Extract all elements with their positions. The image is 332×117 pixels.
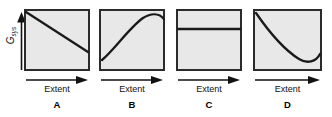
panel-a-curve [24, 9, 90, 71]
panel-b-curve [99, 9, 165, 71]
panel-d-letter: D [253, 99, 322, 110]
panel-c-curve [176, 9, 242, 71]
panel-a-plot [24, 9, 90, 71]
y-axis-label-symbol: G [5, 36, 16, 44]
y-axis-label: Gsys [5, 14, 16, 58]
panel-c-plot [176, 9, 242, 71]
panel-a-x-axis-label: Extent [24, 84, 90, 94]
y-axis-label-subscript: sys [10, 27, 17, 37]
panel-b-letter: B [99, 99, 165, 110]
panel-b-x-axis-label: Extent [99, 84, 165, 94]
panel-d-x-axis-label: Extent [253, 84, 322, 94]
panel-a-letter: A [24, 99, 90, 110]
free-energy-panel-figure: Gsys Extent A Extent B [0, 0, 332, 117]
panel-d-plot [253, 9, 322, 71]
panel-c-letter: C [176, 99, 242, 110]
panel-c-x-axis-label: Extent [176, 84, 242, 94]
panel-b-plot [99, 9, 165, 71]
panel-d-curve [253, 9, 322, 71]
